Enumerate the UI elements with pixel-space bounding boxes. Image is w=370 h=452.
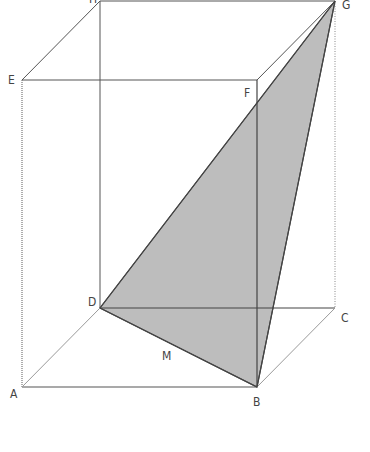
vertex-label-f: F	[244, 86, 250, 100]
vertex-label-d: D	[88, 295, 96, 309]
vertex-label-c: C	[341, 311, 349, 325]
prism-diagram: H G E F D C A B M	[0, 0, 370, 452]
vertex-label-a: A	[10, 387, 18, 401]
shaded-triangle-dbg	[100, 1, 335, 387]
vertex-label-e: E	[8, 73, 15, 87]
edge-ad	[22, 308, 100, 387]
vertex-label-h: H	[89, 0, 97, 6]
vertex-label-g: G	[342, 0, 350, 12]
edge-he	[22, 1, 100, 80]
vertex-label-b: B	[253, 395, 260, 409]
midpoint-label-m: M	[162, 349, 171, 363]
